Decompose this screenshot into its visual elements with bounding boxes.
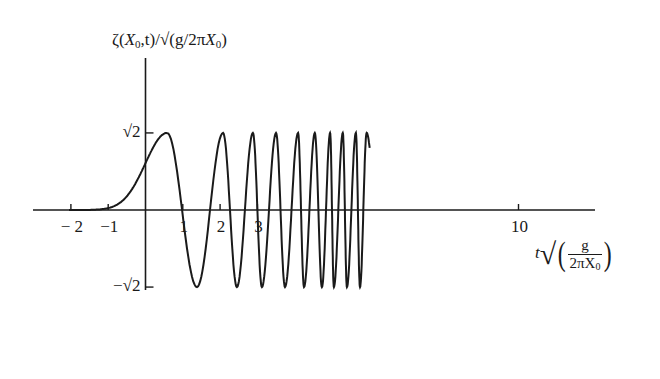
x-tick-label: 1 (180, 217, 189, 237)
x-tick-label: −1 (100, 217, 118, 237)
y-tick-label: −√2 (113, 276, 140, 296)
y-tick-label: √2 (123, 122, 141, 142)
x-tick-label: 3 (254, 217, 263, 237)
plot-area (0, 0, 660, 379)
x-tick-label: 2 (217, 217, 226, 237)
x-axis-label: t√(g2πX0) (535, 235, 614, 273)
x-tick-label: − 2 (61, 217, 83, 237)
x-tick-label: 10 (511, 217, 528, 237)
y-axis-label: ζ(X0,t)/√(g/2πX0) (112, 31, 227, 50)
